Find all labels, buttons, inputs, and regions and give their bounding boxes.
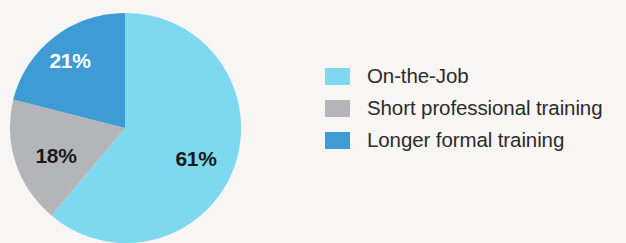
pie-chart-plot-area: 61% 18% 21%	[0, 0, 260, 243]
pie-chart-figure: 61% 18% 21% On-the-Job Short professiona…	[0, 0, 626, 243]
legend-color-swatch-icon	[325, 100, 350, 117]
legend-item-on-the-job[interactable]: On-the-Job	[325, 60, 626, 92]
pie-slice-value-short-professional-training: 18%	[35, 144, 77, 167]
legend-color-swatch-icon	[325, 132, 350, 149]
pie-slice-value-longer-formal-training: 21%	[49, 49, 91, 72]
legend-item-label: On-the-Job	[367, 64, 469, 88]
legend-item-short-professional-training[interactable]: Short professional training	[325, 92, 626, 124]
pie-chart-svg: 61% 18% 21%	[0, 0, 260, 243]
legend-color-swatch-icon	[325, 68, 350, 85]
legend-item-longer-formal-training[interactable]: Longer formal training	[325, 124, 626, 156]
chart-legend: On-the-Job Short professional training L…	[325, 60, 626, 156]
legend-item-label: Longer formal training	[367, 128, 564, 152]
legend-item-label: Short professional training	[367, 96, 602, 120]
pie-slice-value-on-the-job: 61%	[175, 147, 217, 170]
